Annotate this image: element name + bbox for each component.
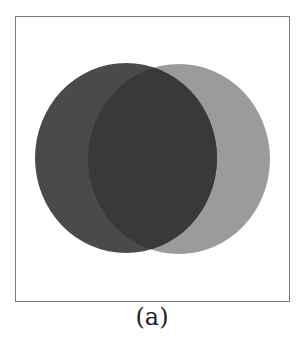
venn-diagram (0, 0, 304, 338)
figure-caption: (a) (0, 303, 304, 331)
